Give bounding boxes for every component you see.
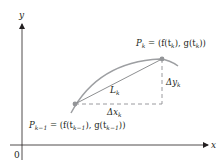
delta-y-label: Δyk [165, 77, 181, 88]
y-axis-label: y [18, 10, 25, 20]
point-p-k-minus-1 [73, 102, 78, 107]
arc-length-diagram: y x 0 Pk = (f(tk), g(tk)) Pk−1 = (f(tk−1… [0, 0, 223, 167]
segment-length-label: Lk [109, 85, 120, 96]
chord-segment [75, 59, 162, 104]
point-p-k [160, 57, 165, 62]
p-k-label: Pk = (f(tk), g(tk)) [135, 38, 206, 49]
x-axis-label: x [211, 140, 216, 150]
p-k-minus-1-label: Pk−1 = (f(tk−1), g(tk−1)) [28, 120, 125, 131]
origin-label: 0 [14, 150, 20, 160]
delta-x-label: Δxk [106, 107, 122, 118]
